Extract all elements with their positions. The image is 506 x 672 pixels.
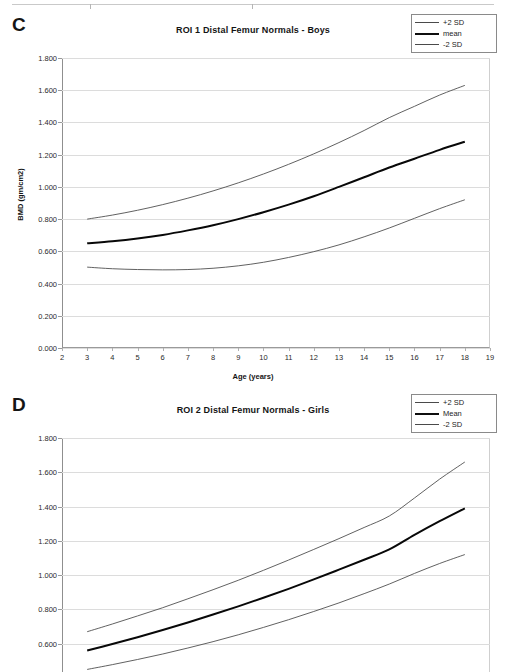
y-tick-label: 1.400 [38,118,57,127]
y-tick-label: 0.800 [38,605,57,614]
x-tick-mark [389,348,390,351]
x-tick-mark [213,348,214,351]
x-tick-mark [87,348,88,351]
x-tick-mark [490,348,491,351]
y-tick-label: 1.400 [38,502,57,511]
series-line-mean [87,142,465,244]
legend-row: +2 SD [415,17,492,28]
x-tick-mark [138,348,139,351]
x-tick-label: 10 [259,353,267,362]
x-tick-label: 16 [410,353,418,362]
y-tick-label: 0.600 [38,247,57,256]
y-tick-label: 1.000 [38,571,57,580]
curves-d [62,438,490,672]
x-tick-label: 12 [310,353,318,362]
x-tick-label: 15 [385,353,393,362]
x-tick-mark [62,348,63,351]
curves-c [62,58,490,348]
figure-panel-d: D ROI 2 Distal Femur Normals - Girls +2 … [0,390,506,672]
legend-line-icon [415,33,439,35]
legend-label: -2 SD [443,40,462,50]
legend-line-icon [415,424,439,425]
y-tick-label: 1.600 [38,86,57,95]
x-tick-mark [188,348,189,351]
y-tick-label: 1.000 [38,182,57,191]
legend-line-icon [415,402,439,403]
y-tick-label: 1.200 [38,536,57,545]
legend-row: -2 SD [415,39,492,50]
legend-row: +2 SD [415,397,492,408]
series-line-2-sd [87,200,465,270]
y-axis-title-c: BMD (gm/cm2) [16,168,25,221]
legend-label: -2 SD [443,420,462,430]
x-tick-label: 6 [161,353,165,362]
y-tick-label: 0.400 [38,279,57,288]
scanned-figure-page: C ROI 1 Distal Femur Normals - Boys +2 S… [0,0,506,672]
x-tick-label: 19 [486,353,494,362]
legend-d: +2 SD Mean -2 SD [411,394,497,433]
x-tick-label: 11 [285,353,293,362]
x-tick-mark [314,348,315,351]
x-tick-label: 9 [236,353,240,362]
x-tick-mark [440,348,441,351]
x-tick-label: 3 [85,353,89,362]
x-tick-label: 14 [360,353,368,362]
x-tick-label: 5 [135,353,139,362]
x-tick-mark [465,348,466,351]
x-tick-mark [414,348,415,351]
x-tick-label: 18 [461,353,469,362]
y-tick-label: 0.600 [38,639,57,648]
x-tick-mark [163,348,164,351]
y-tick-label: 1.600 [38,468,57,477]
legend-label: mean [443,29,462,39]
y-tick-label: 0.800 [38,215,57,224]
legend-line-icon [415,22,439,23]
x-axis-title-c: Age (years) [0,372,506,381]
series-line-2-sd [87,462,465,632]
legend-row: mean [415,28,492,39]
series-line-2-sd [87,555,465,670]
legend-label: Mean [443,409,462,419]
x-tick-mark [339,348,340,351]
x-tick-mark [289,348,290,351]
x-tick-label: 7 [186,353,190,362]
x-tick-mark [364,348,365,351]
x-tick-label: 2 [60,353,64,362]
series-line-2-sd [87,85,465,219]
legend-line-icon [415,44,439,45]
legend-row: -2 SD [415,419,492,430]
x-tick-mark [263,348,264,351]
y-tick-label: 0.200 [38,311,57,320]
legend-label: +2 SD [443,398,464,408]
x-tick-label: 4 [110,353,114,362]
y-tick-label: 1.200 [38,150,57,159]
figure-panel-c: C ROI 1 Distal Femur Normals - Boys +2 S… [0,0,506,390]
x-tick-label: 17 [435,353,443,362]
x-tick-mark [112,348,113,351]
plot-area-c: 0.0000.2000.4000.6000.8001.0001.2001.400… [62,58,490,348]
y-tick-label: 1.800 [38,434,57,443]
x-tick-label: 8 [211,353,215,362]
plot-area-d: 0.4000.6000.8001.0001.2001.4001.6001.800 [62,438,490,672]
series-line-mean [87,508,465,650]
legend-line-icon [415,413,439,415]
x-tick-label: 13 [335,353,343,362]
y-tick-label: 0.000 [38,344,57,353]
legend-row: Mean [415,408,492,419]
legend-c: +2 SD mean -2 SD [411,14,497,53]
gridline [62,348,490,349]
y-tick-label: 1.800 [38,54,57,63]
legend-label: +2 SD [443,18,464,28]
x-tick-mark [238,348,239,351]
